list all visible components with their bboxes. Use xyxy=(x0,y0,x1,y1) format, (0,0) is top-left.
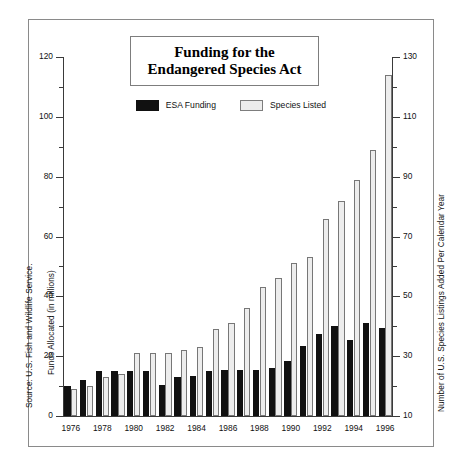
bar-species-listed xyxy=(181,350,187,416)
x-tick-label-1976: 1976 xyxy=(55,423,87,433)
bar-group xyxy=(346,57,362,416)
bar-species-listed xyxy=(323,219,329,416)
left-tick-label-20: 20 xyxy=(44,350,53,360)
x-tick-label-1988: 1988 xyxy=(243,423,275,433)
left-tick-100 xyxy=(56,117,63,118)
bar-species-listed xyxy=(71,389,77,416)
bar-species-listed xyxy=(307,257,313,416)
right-tick-40 xyxy=(393,326,397,327)
legend-label-esa-funding: ESA Funding xyxy=(166,100,216,110)
bar-esa-funding xyxy=(331,326,337,416)
bar-species-listed xyxy=(197,347,203,416)
bar-species-listed xyxy=(165,353,171,416)
chart-title-line1: Funding for the xyxy=(174,44,275,61)
bar-species-listed xyxy=(354,180,360,416)
bar-species-listed xyxy=(338,201,344,416)
bar-esa-funding xyxy=(64,386,70,416)
right-tick-50 xyxy=(393,296,400,297)
legend-label-species-listed: Species Listed xyxy=(270,100,326,110)
legend-swatch-species-listed xyxy=(240,100,263,111)
right-tick-90 xyxy=(393,177,400,178)
bar-esa-funding xyxy=(190,376,196,416)
left-tick-label-120: 120 xyxy=(39,51,53,61)
x-tick-label-1990: 1990 xyxy=(275,423,307,433)
x-tick-label-1980: 1980 xyxy=(118,423,150,433)
bar-species-listed xyxy=(275,278,281,416)
left-tick-120 xyxy=(56,57,63,58)
right-tick-110 xyxy=(393,117,400,118)
bar-esa-funding xyxy=(127,371,133,416)
bar-species-listed xyxy=(150,353,156,416)
bar-group xyxy=(362,57,378,416)
left-tick-0 xyxy=(56,416,63,417)
bar-esa-funding xyxy=(96,371,102,416)
bar-species-listed xyxy=(385,75,391,416)
x-tick-label-1994: 1994 xyxy=(338,423,370,433)
right-tick-70 xyxy=(393,237,400,238)
chart-title-line2: Endangered Species Act xyxy=(148,61,302,78)
right-tick-120 xyxy=(393,87,397,88)
bottom-axis-line xyxy=(63,416,393,417)
bar-esa-funding xyxy=(111,371,117,416)
bar-esa-funding xyxy=(253,370,259,416)
left-tick-label-80: 80 xyxy=(44,171,53,181)
bar-esa-funding xyxy=(143,371,149,416)
chart-legend: ESA Funding Species Listed xyxy=(136,98,326,112)
chart-title-box: Funding for the Endangered Species Act xyxy=(130,36,319,86)
bar-group xyxy=(79,57,95,416)
chart-page: Source: U.S. Fish and Wildlife Service. … xyxy=(0,0,453,462)
right-tick-label-50: 50 xyxy=(403,290,412,300)
left-tick-60 xyxy=(56,237,63,238)
bar-species-listed xyxy=(291,263,297,416)
bar-group xyxy=(63,57,79,416)
bar-species-listed xyxy=(228,323,234,416)
bar-esa-funding xyxy=(221,370,227,416)
x-tick-label-1982: 1982 xyxy=(149,423,181,433)
right-tick-30 xyxy=(393,356,400,357)
bar-group xyxy=(330,57,346,416)
bar-species-listed xyxy=(118,374,124,416)
bar-group xyxy=(110,57,126,416)
bar-esa-funding xyxy=(174,377,180,416)
bar-esa-funding xyxy=(379,328,385,416)
bar-species-listed xyxy=(260,287,266,416)
bar-species-listed xyxy=(134,353,140,416)
right-tick-label-130: 130 xyxy=(403,51,417,61)
bar-species-listed xyxy=(103,377,109,416)
bar-species-listed xyxy=(87,386,93,416)
x-tick-label-1996: 1996 xyxy=(369,423,401,433)
right-tick-label-30: 30 xyxy=(403,350,412,360)
left-tick-label-40: 40 xyxy=(44,290,53,300)
right-tick-label-110: 110 xyxy=(403,111,416,121)
left-tick-80 xyxy=(56,177,63,178)
bar-esa-funding xyxy=(269,368,275,416)
left-tick-label-60: 60 xyxy=(44,231,53,241)
right-tick-60 xyxy=(393,266,397,267)
bar-esa-funding xyxy=(237,370,243,416)
right-tick-20 xyxy=(393,386,397,387)
bar-species-listed xyxy=(244,308,250,416)
bar-group xyxy=(377,57,393,416)
left-tick-40 xyxy=(56,296,63,297)
bar-esa-funding xyxy=(347,340,353,416)
x-tick-label-1986: 1986 xyxy=(212,423,244,433)
x-tick-label-1992: 1992 xyxy=(306,423,338,433)
bar-esa-funding xyxy=(300,346,306,416)
right-tick-10 xyxy=(393,416,400,417)
bar-esa-funding xyxy=(206,371,212,416)
x-tick-label-1978: 1978 xyxy=(86,423,118,433)
bar-species-listed xyxy=(370,150,376,416)
left-tick-20 xyxy=(56,356,63,357)
left-tick-label-100: 100 xyxy=(39,111,53,121)
left-tick-label-0: 0 xyxy=(48,410,53,420)
bar-esa-funding xyxy=(316,334,322,416)
bar-esa-funding xyxy=(363,323,369,416)
right-tick-100 xyxy=(393,147,397,148)
bar-species-listed xyxy=(213,329,219,416)
bar-esa-funding xyxy=(159,385,165,416)
source-note: Source: U.S. Fish and Wildlife Service. xyxy=(25,263,34,408)
right-tick-label-70: 70 xyxy=(403,231,412,241)
right-tick-label-90: 90 xyxy=(403,171,412,181)
right-tick-130 xyxy=(393,57,400,58)
legend-swatch-esa-funding xyxy=(136,100,159,111)
